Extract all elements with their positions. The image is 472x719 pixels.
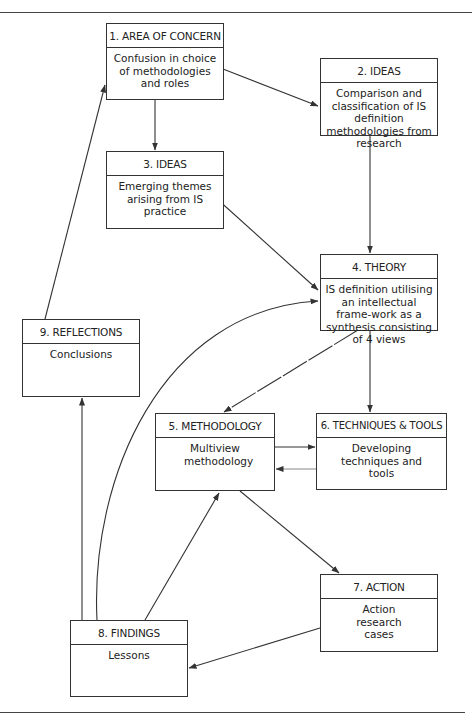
box-title: 4. THEORY	[321, 255, 437, 279]
edge-8-5	[145, 493, 219, 620]
box-body: Conclusions	[23, 344, 139, 361]
box-body: Comparison and classification of IS defi…	[321, 83, 437, 150]
box-body: Multiview methodology	[156, 438, 274, 467]
box-body: Developing techniques and tools	[317, 438, 446, 480]
box-reflections: 9. REFLECTIONS Conclusions	[22, 319, 140, 397]
box-title: 7. ACTION	[321, 575, 437, 599]
box-title: 1. AREA OF CONCERN	[107, 24, 223, 48]
box-title: 6. TECHNIQUES & TOOLS	[317, 414, 446, 438]
box-title: 5. METHODOLOGY	[156, 414, 274, 438]
box-ideas-research: 2. IDEAS Comparison and classification o…	[320, 58, 438, 136]
box-techniques-tools: 6. TECHNIQUES & TOOLS Developing techniq…	[316, 413, 447, 490]
box-area-of-concern: 1. AREA OF CONCERN Confusion in choice o…	[106, 23, 224, 100]
box-body: Lessons	[71, 645, 187, 662]
box-title: 9. REFLECTIONS	[23, 320, 139, 344]
box-methodology: 5. METHODOLOGY Multiview methodology	[155, 413, 275, 491]
edge-7-8	[189, 628, 320, 668]
edge-1-2	[223, 69, 318, 106]
box-title: 2. IDEAS	[321, 59, 437, 83]
box-ideas-practice: 3. IDEAS Emerging themes arising from IS…	[106, 151, 224, 229]
box-body: IS definition utilising an intellectual …	[321, 279, 437, 346]
box-body: Emerging themes arising from IS practice	[107, 176, 223, 218]
edge-5-7	[240, 491, 339, 573]
box-title: 8. FINDINGS	[71, 621, 187, 645]
box-title: 3. IDEAS	[107, 152, 223, 176]
box-body: Action research cases	[321, 599, 437, 641]
box-action: 7. ACTION Action research cases	[320, 574, 438, 652]
edge-9-1	[45, 85, 105, 319]
box-theory: 4. THEORY IS definition utilising an int…	[320, 254, 438, 331]
box-body: Confusion in choice of methodologies and…	[107, 48, 223, 90]
box-findings: 8. FINDINGS Lessons	[70, 620, 188, 697]
